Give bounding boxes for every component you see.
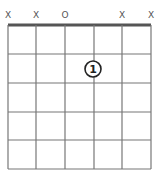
string-lines [8, 25, 151, 169]
string-5-marker: X [119, 10, 125, 20]
chord-diagram: X X O X X 1 [0, 0, 168, 185]
finger-marker: 1 [85, 61, 101, 77]
string-6-marker: X [148, 10, 154, 20]
finger-number: 1 [89, 63, 97, 76]
fret-lines [8, 54, 151, 169]
string-3-marker: O [61, 10, 68, 20]
string-1-marker: X [5, 10, 11, 20]
string-2-marker: X [33, 10, 39, 20]
